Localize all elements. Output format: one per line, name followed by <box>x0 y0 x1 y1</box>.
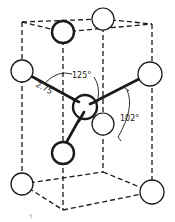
atom-top-front <box>52 21 74 43</box>
atom-left <box>11 60 33 82</box>
unit-cell-diagram: 2.75 125° 102° τ <box>0 0 175 222</box>
atom-bottom-left <box>11 173 33 195</box>
angle-arc-125 <box>46 73 72 82</box>
bond-length-label: 2.75 <box>34 80 54 96</box>
atom-top-back <box>92 8 114 30</box>
atom-lower-front <box>52 142 74 164</box>
atom-mid-back <box>92 113 114 135</box>
corner-mark: τ <box>29 212 33 219</box>
atom-bottom-right <box>140 180 164 204</box>
bond-lower <box>66 118 80 143</box>
angle-102-label: 102° <box>120 114 139 123</box>
bond-right <box>96 79 139 101</box>
atom-center <box>73 95 97 119</box>
atom-right <box>138 62 162 86</box>
angle-125-label: 125° <box>72 71 91 80</box>
